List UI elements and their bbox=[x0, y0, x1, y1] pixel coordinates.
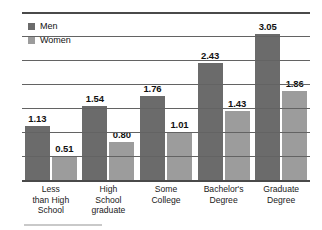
legend-label-women: Women bbox=[40, 36, 71, 45]
legend-item-men: Men bbox=[28, 20, 71, 32]
bar-value-women-4: 1.86 bbox=[286, 78, 304, 89]
bar-slot-men-4: 3.05 bbox=[255, 12, 280, 180]
chart-legend: Men Women bbox=[28, 20, 71, 48]
bar-women-3 bbox=[225, 111, 250, 180]
category-label-2: SomeCollege bbox=[137, 184, 195, 216]
legend-swatch-women-icon bbox=[28, 37, 35, 44]
legend-item-women: Women bbox=[28, 34, 71, 46]
bar-men-4 bbox=[255, 34, 280, 180]
bar-women-0 bbox=[52, 156, 77, 180]
bar-value-women-0: 0.51 bbox=[55, 143, 73, 154]
category-label-0: Lessthan HighSchool bbox=[22, 184, 80, 216]
bar-value-men-3: 2.43 bbox=[201, 50, 219, 61]
bar-group-bachelors-degree: 2.43 1.43 bbox=[195, 12, 253, 180]
category-label-1: HighSchoolgraduate bbox=[80, 184, 138, 216]
bar-men-3 bbox=[198, 63, 223, 180]
bar-men-1 bbox=[82, 106, 107, 180]
bar-women-1 bbox=[109, 142, 134, 180]
bar-value-men-4: 3.05 bbox=[259, 21, 277, 32]
bar-slot-men-1: 1.54 bbox=[82, 12, 107, 180]
bar-slot-men-3: 2.43 bbox=[198, 12, 223, 180]
bar-slot-men-2: 1.76 bbox=[140, 12, 165, 180]
bar-value-men-1: 1.54 bbox=[86, 93, 104, 104]
bar-women-2 bbox=[167, 132, 192, 180]
bar-men-2 bbox=[140, 96, 165, 180]
bar-group-high-school-graduate: 1.54 0.80 bbox=[80, 12, 138, 180]
bar-slot-women-4: 1.86 bbox=[282, 12, 307, 180]
bar-women-4 bbox=[282, 91, 307, 180]
bar-value-women-3: 1.43 bbox=[228, 98, 246, 109]
x-axis-category-labels: Lessthan HighSchool HighSchoolgraduate S… bbox=[22, 184, 310, 216]
bar-value-women-1: 0.80 bbox=[113, 129, 131, 140]
legend-label-men: Men bbox=[40, 22, 58, 31]
category-label-3: Bachelor'sDegree bbox=[195, 184, 253, 216]
bar-slot-women-2: 1.01 bbox=[167, 12, 192, 180]
x-axis-baseline bbox=[22, 180, 310, 182]
bar-group-some-college: 1.76 1.01 bbox=[137, 12, 195, 180]
bar-value-women-2: 1.01 bbox=[170, 119, 188, 130]
bottom-divider bbox=[24, 224, 102, 226]
category-label-4: GraduateDegree bbox=[252, 184, 310, 216]
bar-chart: Men Women 1.13 0.51 1.54 bbox=[0, 0, 322, 230]
bar-slot-women-3: 1.43 bbox=[225, 12, 250, 180]
bar-value-men-2: 1.76 bbox=[143, 83, 161, 94]
legend-swatch-men-icon bbox=[28, 23, 35, 30]
bar-slot-women-1: 0.80 bbox=[109, 12, 134, 180]
bar-group-graduate-degree: 3.05 1.86 bbox=[252, 12, 310, 180]
bar-men-0 bbox=[25, 126, 50, 180]
bar-value-men-0: 1.13 bbox=[28, 113, 46, 124]
